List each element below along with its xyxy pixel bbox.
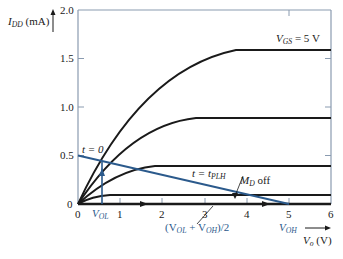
voh-label: VOH xyxy=(279,222,297,235)
y-ticks xyxy=(78,59,331,156)
x-tick-6: 6 xyxy=(328,209,334,220)
mosfet-curves xyxy=(78,50,331,204)
y-tick-1.0: 1.0 xyxy=(60,102,74,113)
x-tick-1: 1 xyxy=(117,209,123,220)
t0-annotation: t = 0 xyxy=(82,144,103,155)
y-tick-1.5: 1.5 xyxy=(60,53,74,64)
curve-vgs-5 xyxy=(78,50,331,204)
tplh-annotation: t = tPLH xyxy=(192,168,226,181)
y-tick-0: 0 xyxy=(67,199,73,210)
md-off-annotation: MD off xyxy=(240,175,270,188)
midpoint-label: (VOL + VOH)/2 xyxy=(165,222,229,235)
y-axis-label: IDD (mA) xyxy=(8,16,49,29)
y-tick-0.5: 0.5 xyxy=(60,150,74,161)
x-tick-3: 3 xyxy=(202,209,208,220)
x-tick-0: 0 xyxy=(75,209,81,220)
y-tick-2.0: 2.0 xyxy=(60,5,74,16)
x-tick-5: 5 xyxy=(286,209,292,220)
curve-vgs-4 xyxy=(78,118,331,204)
x-axis-label: Vo (V) xyxy=(303,235,332,248)
x-tick-2: 2 xyxy=(159,209,165,220)
x-tick-4: 4 xyxy=(244,209,250,220)
vol-label: VOL xyxy=(92,208,109,221)
vgs-annotation: VGS = 5 V xyxy=(276,33,320,46)
